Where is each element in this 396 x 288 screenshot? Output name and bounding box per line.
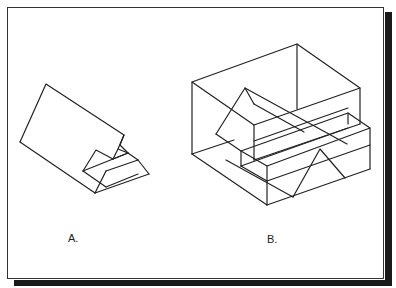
figure-b-drawing	[192, 44, 370, 205]
figure-drawing	[0, 0, 396, 288]
figure-b-label: B.	[267, 233, 277, 245]
figure-a-label: A.	[68, 232, 78, 244]
figure-a-drawing	[20, 84, 149, 193]
